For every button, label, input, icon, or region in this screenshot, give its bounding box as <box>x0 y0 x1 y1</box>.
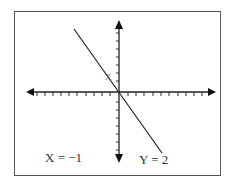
x-axis-right-arrow-icon <box>208 88 216 96</box>
line-point-label: X <box>105 72 112 82</box>
coordinate-plane <box>0 0 230 184</box>
y-axis-down-arrow-icon <box>115 154 123 163</box>
y-axis-up-arrow-icon <box>115 20 123 29</box>
x-axis-left-arrow-icon <box>26 88 34 96</box>
y-equation-label: Y = 2 <box>139 152 168 168</box>
x-equation-label: X = −1 <box>45 150 82 166</box>
